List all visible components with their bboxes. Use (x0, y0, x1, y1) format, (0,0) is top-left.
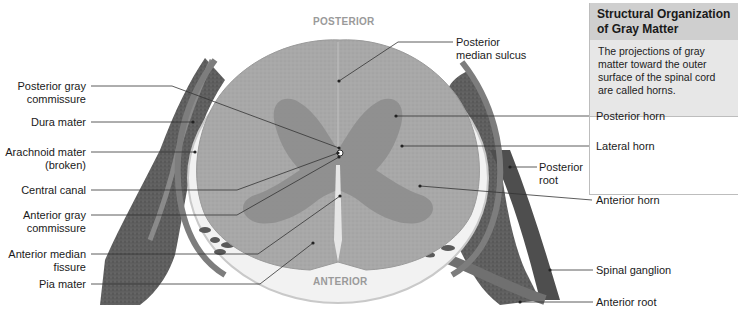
label-anterior-horn: Anterior horn (596, 194, 660, 207)
orientation-posterior: POSTERIOR (313, 16, 375, 27)
infobox-title: Structural Organization of Gray Matter (590, 3, 738, 40)
infobox-description: The projections of gray matter toward th… (590, 40, 738, 117)
label-posterior-horn: Posterior horn (596, 110, 665, 123)
label-spinal-ganglion: Spinal ganglion (596, 264, 671, 277)
label-anterior-median-fissure: Anterior median fissure (8, 248, 86, 274)
structural-organization-infobox: Structural Organization of Gray Matter T… (589, 3, 738, 195)
label-lateral-horn: Lateral horn (596, 140, 655, 153)
label-posterior-root: Posterior root (539, 161, 583, 187)
label-arachnoid-mater: Arachnoid mater (broken) (5, 146, 86, 172)
label-pia-mater: Pia mater (39, 278, 86, 291)
label-anterior-gray-commissure: Anterior gray commissure (23, 209, 86, 235)
label-posterior-median-sulcus: Posterior median sulcus (456, 36, 526, 62)
label-dura-mater: Dura mater (31, 116, 86, 129)
orientation-anterior: ANTERIOR (313, 276, 368, 287)
label-anterior-root: Anterior root (596, 296, 657, 309)
label-posterior-gray-commissure: Posterior gray commissure (18, 80, 86, 106)
label-central-canal: Central canal (21, 184, 86, 197)
